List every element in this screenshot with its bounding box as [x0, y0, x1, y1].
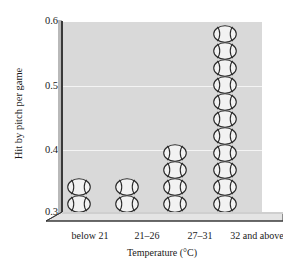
x-axis-tick-labels: below 21 21–26 27–31 32 and above: [46, 230, 283, 246]
baseball-icon: [114, 195, 140, 213]
x-tick-label-32-and-above: 32 and above: [214, 230, 283, 241]
bar-21-26: [114, 178, 140, 213]
baseball-icon: [162, 178, 188, 196]
baseball-icon: [212, 93, 238, 111]
baseball-icon: [66, 195, 92, 213]
bar-series-group: [62, 22, 262, 213]
baseball-icon: [114, 178, 140, 196]
baseball-icon: [212, 42, 238, 60]
baseball-icon: [162, 195, 188, 213]
y-tick-label-0.4: 0.4: [24, 145, 58, 156]
y-tick-label-0.5: 0.5: [24, 81, 58, 92]
baseball-icon: [212, 178, 238, 196]
chart-container: Hit by pitch per game 0.6 0.5 0.4 0.3 be…: [0, 0, 283, 270]
y-tick-label-0.6: 0.6: [24, 16, 58, 27]
baseball-icon: [162, 161, 188, 179]
x-tick-label-21-26: 21–26: [118, 230, 176, 241]
bar-32-and-above: [212, 25, 238, 213]
baseball-icon: [212, 110, 238, 128]
baseball-icon: [212, 76, 238, 94]
baseball-icon: [212, 144, 238, 162]
baseball-icon: [212, 195, 238, 213]
x-tick-label-below-21: below 21: [58, 230, 122, 241]
baseball-icon: [212, 127, 238, 145]
x-axis-title: Temperature (°C): [62, 247, 262, 258]
baseball-icon: [212, 25, 238, 43]
baseball-icon: [212, 161, 238, 179]
baseball-icon: [66, 178, 92, 196]
baseball-icon: [212, 59, 238, 77]
bar-below-21: [66, 178, 92, 213]
bar-27-31: [162, 144, 188, 213]
baseball-icon: [162, 144, 188, 162]
